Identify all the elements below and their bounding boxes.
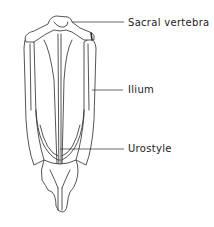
sacral-vertebra <box>25 16 94 42</box>
label-ilium: Ilium <box>128 84 154 96</box>
right-ilium <box>76 38 96 165</box>
left-ilium <box>24 36 44 165</box>
pelvic-girdle-drawing <box>0 0 214 227</box>
acetabulum-region <box>41 160 78 212</box>
inner-pelvis <box>36 110 84 160</box>
label-urostyle: Urostyle <box>128 143 172 155</box>
label-sacral-vertebra: Sacral vertebra <box>128 17 210 29</box>
